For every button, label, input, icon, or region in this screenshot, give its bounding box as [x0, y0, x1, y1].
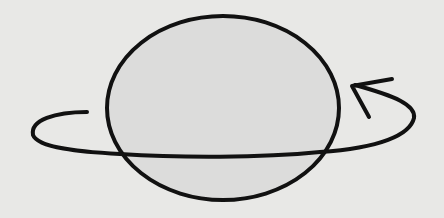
diagram-canvas: Hand-drawn sphere with a counter-clockwi… — [0, 0, 444, 218]
arrowhead-icon — [352, 79, 392, 117]
sphere — [107, 16, 339, 200]
rotation-diagram — [0, 0, 444, 218]
